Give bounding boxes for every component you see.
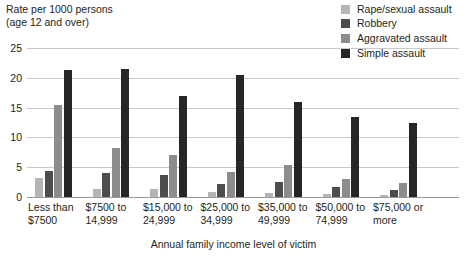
x-axis-tick-label: Less than $7500 xyxy=(28,201,74,226)
legend-item[interactable]: Rape/sexual assault xyxy=(341,2,467,17)
bar[interactable] xyxy=(160,175,168,197)
bar[interactable] xyxy=(35,178,43,197)
bar[interactable] xyxy=(265,193,273,197)
bar[interactable] xyxy=(380,195,388,197)
y-axis-tick-label: 10 xyxy=(10,131,22,143)
legend-item-label: Rape/sexual assault xyxy=(357,4,452,15)
bar[interactable] xyxy=(323,194,331,197)
bar[interactable] xyxy=(342,179,350,197)
bar[interactable] xyxy=(64,70,72,197)
x-axis-line xyxy=(27,197,459,198)
bar[interactable] xyxy=(399,183,407,197)
bar[interactable] xyxy=(390,190,398,197)
bar[interactable] xyxy=(112,148,120,197)
y-axis-tick-label: 15 xyxy=(10,102,22,114)
bar[interactable] xyxy=(208,192,216,197)
bar[interactable] xyxy=(150,189,158,197)
bar-group xyxy=(323,48,360,197)
plot-area: 0510152025 xyxy=(27,48,459,197)
legend-swatch-rape-sexual-assault xyxy=(341,5,350,14)
bar[interactable] xyxy=(236,75,244,197)
bar[interactable] xyxy=(121,69,129,197)
y-axis-tick-label: 0 xyxy=(16,191,22,203)
legend-item-label: Aggravated assault xyxy=(357,33,447,44)
x-axis-tick-label: $15,000 to 24,999 xyxy=(143,201,193,226)
bar-group xyxy=(208,48,245,197)
legend-item[interactable]: Aggravated assault xyxy=(341,31,467,46)
bar[interactable] xyxy=(294,102,302,197)
bar[interactable] xyxy=(54,105,62,197)
x-axis-title: Annual family income level of victim xyxy=(0,238,467,250)
bar[interactable] xyxy=(227,172,235,197)
y-axis-title: Rate per 1000 persons (age 12 and over) xyxy=(6,3,113,28)
bar[interactable] xyxy=(179,96,187,197)
x-axis-tick-label: $7500 to 14,999 xyxy=(86,201,127,226)
bar-group xyxy=(35,48,72,197)
bar-group xyxy=(93,48,130,197)
bar-group xyxy=(265,48,302,197)
bar[interactable] xyxy=(102,173,110,197)
bar[interactable] xyxy=(351,117,359,197)
bar-group xyxy=(150,48,187,197)
x-axis-tick-label: $50,000 to 74,999 xyxy=(316,201,366,226)
y-axis-tick-label: 25 xyxy=(10,42,22,54)
x-axis-labels: Less than $7500$7500 to 14,999$15,000 to… xyxy=(27,201,467,235)
legend-swatch-aggravated-assault xyxy=(341,34,350,43)
bar[interactable] xyxy=(409,123,417,197)
x-axis-tick-label: $35,000 to 49,999 xyxy=(258,201,308,226)
x-axis-tick-label: $75,000 or more xyxy=(373,201,423,226)
bar[interactable] xyxy=(332,187,340,197)
bar[interactable] xyxy=(169,155,177,197)
bar-group xyxy=(380,48,417,197)
bar[interactable] xyxy=(275,182,283,197)
bar[interactable] xyxy=(93,189,101,197)
legend-item-label: Robbery xyxy=(357,18,397,29)
legend-swatch-robbery xyxy=(341,19,350,28)
bar-chart: Rate per 1000 persons (age 12 and over) … xyxy=(0,0,467,256)
bar[interactable] xyxy=(284,165,292,197)
y-axis-tick-label: 5 xyxy=(16,161,22,173)
y-axis-tick-label: 20 xyxy=(10,72,22,84)
bar[interactable] xyxy=(45,171,53,197)
x-axis-tick-label: $25,000 to 34,999 xyxy=(201,201,251,226)
legend-item[interactable]: Robbery xyxy=(341,17,467,32)
bar[interactable] xyxy=(217,184,225,197)
